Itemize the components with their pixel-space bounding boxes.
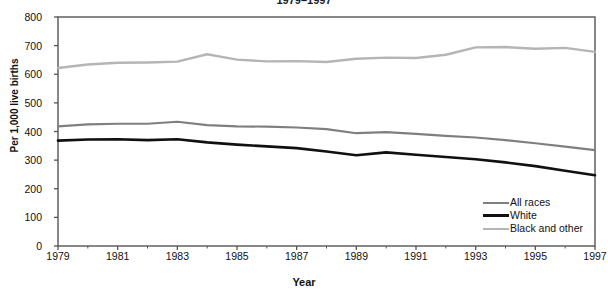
- legend-label-white: White: [510, 209, 537, 222]
- chart-container: 1979–1997 Per 1,000 live births Year 010…: [0, 0, 608, 296]
- legend-item-white: White: [483, 209, 583, 222]
- legend-item-black-and-other: Black and other: [483, 222, 583, 235]
- series-line-black-and-other: [58, 47, 595, 68]
- series-line-white: [58, 139, 595, 175]
- chart-legend: All races White Black and other: [483, 196, 583, 235]
- legend-item-all-races: All races: [483, 196, 583, 209]
- legend-swatch-all-races: [483, 202, 509, 204]
- legend-label-black-and-other: Black and other: [510, 222, 583, 235]
- plot-area: [0, 0, 608, 296]
- legend-swatch-white: [483, 214, 509, 217]
- legend-label-all-races: All races: [510, 196, 550, 209]
- legend-swatch-black-and-other: [483, 228, 509, 230]
- series-line-all-races: [58, 122, 595, 150]
